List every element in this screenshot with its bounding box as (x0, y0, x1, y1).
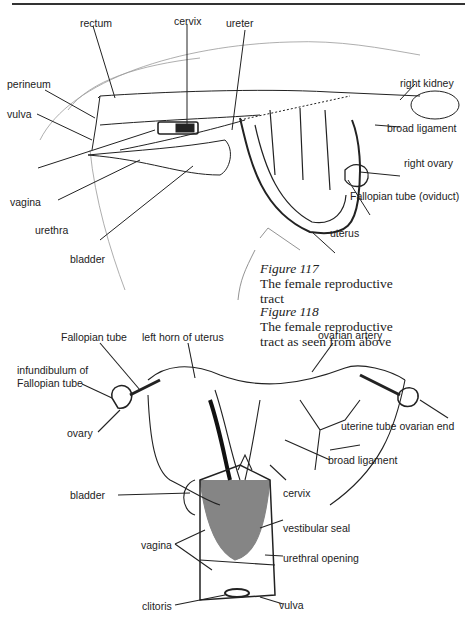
label-right-ovary: right ovary (404, 157, 453, 169)
caption-figure-117: Figure 117The female reproductive tract (260, 261, 465, 306)
label-fallopian-tube-oviduct: Fallopian tube (oviduct) (350, 190, 459, 202)
label-ovary: ovary (67, 427, 93, 439)
caption-text: The female reproductive tract (260, 276, 400, 306)
caption-number: Figure 117 (260, 261, 342, 276)
label-vulva-117: vulva (7, 108, 32, 120)
label-uterine-tube-ovarian-end: uterine tube ovarian end (341, 420, 454, 432)
label-right-kidney: right kidney (400, 77, 454, 89)
label-ovarian-artery: ovarian artery (318, 329, 382, 341)
label-bladder-118: bladder (70, 489, 105, 501)
label-rectum: rectum (80, 17, 112, 29)
label-fallopian-tube-118: Fallopian tube (61, 331, 127, 343)
label-urethral-opening: urethral opening (283, 552, 359, 564)
label-vagina-117: vagina (10, 196, 41, 208)
label-ureter: ureter (226, 17, 253, 29)
caption-figure-118: Figure 118The female reproductive tract … (260, 304, 465, 349)
label-urethra: urethra (35, 224, 68, 236)
label-vulva-118: vulva (279, 599, 304, 611)
label-cervix: cervix (174, 15, 201, 27)
label-vagina-118: vagina (141, 539, 172, 551)
label-bladder-117: bladder (70, 253, 105, 265)
label-uterus: uterus (330, 227, 359, 239)
label-infundibulum-line2: Fallopian tube (17, 377, 83, 389)
label-vestibular-seal: vestibular seal (283, 522, 350, 534)
label-cervix-118: cervix (283, 487, 310, 499)
label-broad-ligament-117: broad ligament (387, 122, 456, 134)
label-clitoris: clitoris (142, 600, 172, 612)
label-infundibulum-line1: infundibulum of (17, 364, 88, 376)
label-perineum: perineum (7, 78, 51, 90)
caption-number: Figure 118 (260, 304, 342, 319)
label-broad-ligament-118: broad ligament (328, 454, 397, 466)
label-left-horn-of-uterus: left horn of uterus (142, 331, 224, 343)
